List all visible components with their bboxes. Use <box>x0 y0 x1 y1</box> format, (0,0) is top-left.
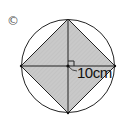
dimension-label: 10cm <box>77 64 112 81</box>
inscribed-square-diagram <box>0 0 126 120</box>
